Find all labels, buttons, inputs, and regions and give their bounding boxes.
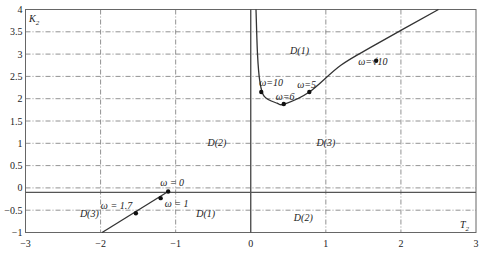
y-axis-label: K2	[28, 13, 40, 27]
x-tick-label: 3	[474, 238, 479, 249]
y-tick-label: 3.5	[10, 26, 23, 37]
data-point-marker	[282, 102, 286, 106]
omega-label: ω=6	[276, 91, 295, 102]
x-tick-label: −2	[95, 238, 106, 249]
y-tick-label: 2.5	[10, 71, 23, 82]
omega-label: ω=√10	[358, 56, 387, 67]
data-point-marker	[307, 90, 311, 94]
omega-label: ω = 1.7	[101, 200, 133, 211]
y-tick-label: −0.5	[4, 205, 22, 216]
y-tick-label: 2	[18, 93, 23, 104]
omega-label: ω=10	[259, 77, 283, 88]
data-point-marker	[259, 90, 263, 94]
y-tick-label: 0.5	[10, 160, 23, 171]
y-tick-label: 1.5	[10, 116, 23, 127]
omega-label: ω=5	[297, 79, 316, 90]
y-tick-label: 3	[18, 49, 23, 60]
data-point-marker	[134, 211, 138, 215]
region-label: D(3)	[315, 137, 336, 149]
x-tick-label: −3	[20, 238, 31, 249]
annotations: ω = 1.7ω = 1ω = 0ω=10ω=6ω=5ω=√10D(1)D(2)…	[79, 45, 388, 224]
region-label: D(1)	[289, 45, 310, 57]
y-tick-label: 4	[18, 4, 23, 15]
chart: −3−2−1012343.532.521.510.50−0.5−1 ω = 1.…	[0, 0, 482, 253]
tick-labels: −3−2−1012343.532.521.510.50−0.5−1	[4, 4, 478, 249]
region-label: D(2)	[207, 137, 228, 149]
y-tick-label: 1	[18, 138, 23, 149]
x-tick-label: 1	[323, 238, 328, 249]
omega-label: ω = 1	[165, 198, 189, 209]
data-point-marker	[166, 189, 170, 193]
y-tick-label: −1	[12, 227, 23, 238]
x-tick-label: 0	[248, 238, 253, 249]
x-axis-label: T2	[460, 219, 470, 233]
omega-label: ω = 0	[160, 177, 184, 188]
data-point-marker	[158, 196, 162, 200]
region-label: D(1)	[195, 208, 216, 220]
region-label: D(3)	[79, 208, 100, 220]
region-label: D(2)	[293, 212, 314, 224]
y-tick-label: 0	[18, 182, 23, 193]
x-tick-label: 2	[398, 238, 403, 249]
x-tick-label: −1	[170, 238, 181, 249]
